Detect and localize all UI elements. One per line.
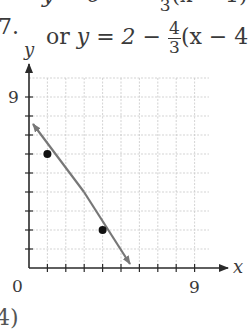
grid-lines	[29, 78, 209, 268]
y-tick-label-9: 9	[8, 87, 19, 107]
line-graph	[84, 192, 130, 264]
bottom-fragment: 4)	[0, 305, 19, 330]
point-1-6	[43, 150, 51, 158]
coordinate-graph: y x 0 9 9	[0, 0, 249, 334]
x-axis-label: x	[233, 256, 243, 277]
line-graph-upper	[33, 124, 84, 192]
point-4-2	[99, 226, 107, 234]
origin-label: 0	[12, 276, 23, 296]
y-axis-label: y	[23, 39, 35, 60]
x-tick-label-9: 9	[189, 277, 200, 297]
